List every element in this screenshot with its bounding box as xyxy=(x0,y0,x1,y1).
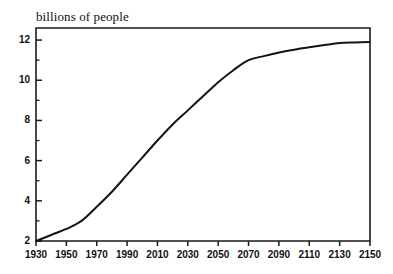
data-series-group xyxy=(36,42,370,241)
x-tick-label: 2090 xyxy=(262,250,296,260)
population-curve xyxy=(36,42,370,241)
y-tick-label: 2 xyxy=(8,236,30,246)
y-tick-label: 8 xyxy=(8,115,30,125)
y-tick-label: 4 xyxy=(8,196,30,206)
plot-area xyxy=(0,0,393,274)
chart-figure: billions of people 24681012 193019501970… xyxy=(0,0,393,274)
x-tick-label: 2030 xyxy=(171,250,205,260)
x-tick-label: 2150 xyxy=(353,250,387,260)
x-tick-label: 1970 xyxy=(80,250,114,260)
x-tick-label: 2010 xyxy=(140,250,174,260)
x-tick-label: 2050 xyxy=(201,250,235,260)
x-tick-label: 1990 xyxy=(110,250,144,260)
y-axis-ticks xyxy=(36,40,42,241)
x-tick-label: 1950 xyxy=(49,250,83,260)
x-tick-label: 2110 xyxy=(292,250,326,260)
y-tick-label: 12 xyxy=(8,35,30,45)
axis-frame xyxy=(36,28,370,241)
x-tick-label: 2070 xyxy=(232,250,266,260)
y-tick-label: 6 xyxy=(8,156,30,166)
y-tick-label: 10 xyxy=(8,75,30,85)
x-tick-label: 2130 xyxy=(323,250,357,260)
x-tick-label: 1930 xyxy=(19,250,53,260)
